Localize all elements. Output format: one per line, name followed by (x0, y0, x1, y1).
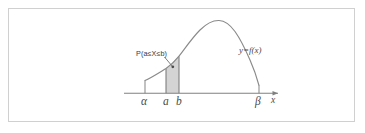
probability-leader-dot (171, 65, 174, 68)
tick-label-b: b (176, 96, 182, 108)
tick-label-alpha: α (141, 96, 147, 108)
function-label: y=f(x) (239, 46, 262, 55)
tick-label-beta: β (255, 96, 261, 108)
probability-leader-line (165, 57, 173, 67)
tick-label-a: a (163, 96, 169, 108)
probability-label: P(a≤X≤b) (136, 50, 167, 57)
density-curve-diagram (0, 0, 365, 133)
x-axis-label: x (271, 96, 275, 106)
figure-root: P(a≤X≤b) y=f(x) α a b β x (0, 0, 365, 133)
